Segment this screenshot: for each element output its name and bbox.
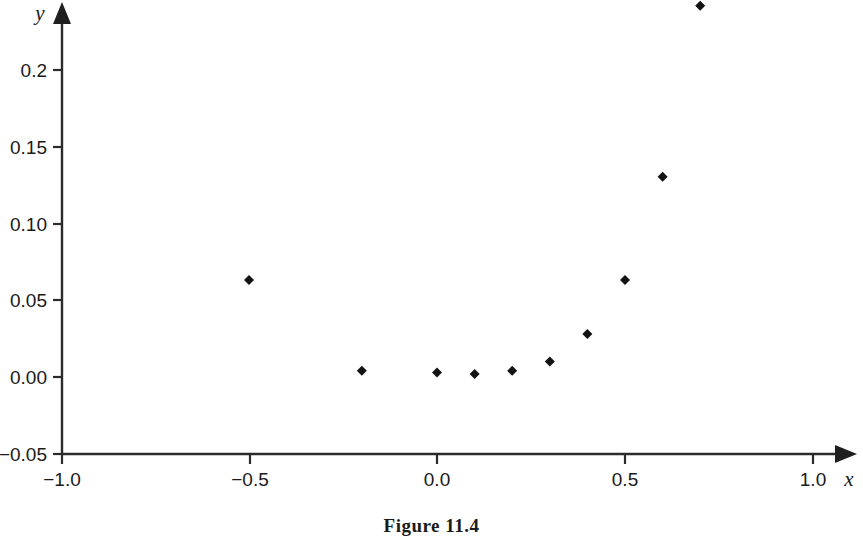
y-tick-marks [53, 70, 62, 454]
data-point [507, 366, 517, 376]
y-tick-label: 0.10 [10, 214, 47, 235]
x-tick-label: 0.0 [424, 469, 450, 490]
y-tick-label: 0.15 [10, 137, 47, 158]
data-point [357, 366, 367, 376]
y-tick-label: −0.05 [0, 444, 47, 465]
y-tick-label: 0.05 [10, 290, 47, 311]
y-axis-arrow-icon [53, 2, 71, 24]
data-point [470, 369, 480, 379]
x-tick-labels: −1.0 −0.5 0.0 0.5 1.0 [43, 469, 826, 490]
y-tick-label: 0.2 [21, 60, 47, 81]
figure-caption: Figure 11.4 [0, 515, 863, 537]
x-tick-label: −0.5 [231, 469, 269, 490]
data-point [432, 367, 442, 377]
y-axis-label: y [33, 1, 45, 25]
data-point [658, 172, 668, 182]
x-tick-marks [62, 454, 813, 464]
data-point-layer [244, 1, 705, 379]
data-point [695, 1, 705, 11]
x-tick-label: −1.0 [43, 469, 81, 490]
y-tick-labels: 0.2 0.15 0.10 0.05 0.00 −0.05 [0, 60, 47, 465]
x-axis-arrow-icon [835, 445, 857, 463]
data-point [620, 275, 630, 285]
x-tick-label: 0.5 [612, 469, 638, 490]
axes-group [53, 2, 857, 463]
x-tick-label: 1.0 [800, 469, 826, 490]
x-axis-label: x [843, 467, 854, 491]
data-point [244, 275, 254, 285]
data-point [582, 329, 592, 339]
data-point [545, 357, 555, 367]
y-tick-label: 0.00 [10, 367, 47, 388]
